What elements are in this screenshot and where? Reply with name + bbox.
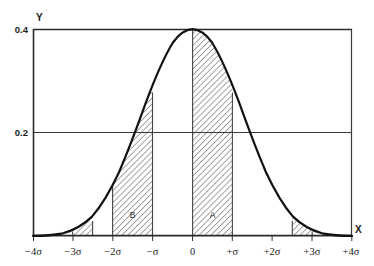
- x-tick-label-+3sigma: +3σ: [304, 246, 321, 257]
- x-tick-label--2sigma: −2σ: [104, 246, 121, 257]
- normal-distribution-chart: Y X 0.4 0.2 −4σ −3σ −2σ −σ 0 +σ +2σ +3σ …: [0, 0, 374, 266]
- x-tick-label-+sigma: +σ: [227, 246, 239, 257]
- x-tick-label-+4sigma: +4σ: [343, 246, 360, 257]
- x-tick-label--sigma: −σ: [147, 246, 159, 257]
- x-tick-label--3sigma: −3σ: [65, 246, 82, 257]
- x-tick-label-+2sigma: +2σ: [264, 246, 281, 257]
- x-tick-label--4sigma: −4σ: [25, 246, 42, 257]
- x-axis-title: X: [355, 224, 362, 235]
- region-label-A: A: [210, 210, 216, 220]
- y-tick-label-0.2: 0.2: [15, 127, 28, 138]
- region-label-B: B: [130, 210, 136, 220]
- y-axis-title: Y: [36, 12, 43, 23]
- x-axis-ticks: [34, 236, 352, 241]
- y-tick-label-0.4: 0.4: [15, 24, 29, 35]
- x-tick-label-0: 0: [190, 246, 195, 257]
- normal-distribution-figure: Y X 0.4 0.2 −4σ −3σ −2σ −σ 0 +σ +2σ +3σ …: [0, 0, 374, 266]
